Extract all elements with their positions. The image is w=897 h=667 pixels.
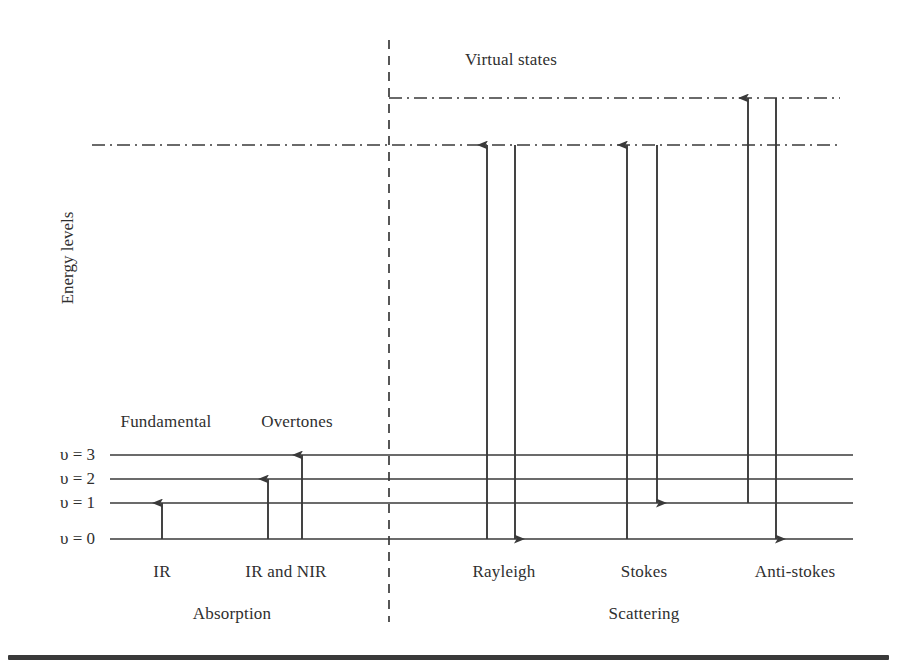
level-label-v3: υ = 3	[60, 445, 95, 465]
group-label-absorption: Absorption	[193, 605, 272, 622]
transition-arrows	[162, 98, 776, 539]
group-label-scattering: Scattering	[609, 605, 680, 622]
energy-level-diagram: Energy levels Virtual states Fundamental…	[0, 0, 897, 667]
overtones-label: Overtones	[261, 413, 333, 430]
level-label-v1: υ = 1	[60, 493, 95, 513]
process-label-stokes: Stokes	[621, 563, 668, 580]
process-label-anti-stokes: Anti-stokes	[755, 563, 836, 580]
process-label-ir: IR	[153, 563, 170, 580]
level-label-v2: υ = 2	[60, 469, 95, 489]
vibrational-level-lines	[110, 455, 853, 539]
bottom-rule-divider	[8, 655, 889, 660]
virtual-states-label: Virtual states	[465, 51, 557, 68]
process-label-ir-and-nir: IR and NIR	[245, 563, 326, 580]
process-label-rayleigh: Rayleigh	[473, 563, 536, 580]
virtual-state-lines	[92, 98, 840, 145]
fundamental-label: Fundamental	[121, 413, 212, 430]
level-label-v0: υ = 0	[60, 529, 95, 549]
y-axis-label: Energy levels	[58, 212, 78, 305]
